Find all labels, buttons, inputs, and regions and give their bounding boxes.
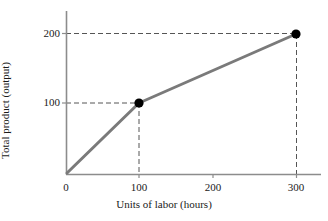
x-axis-tick-label-0: 0 [55,182,77,193]
x-axis-tick-label-100: 100 [126,182,152,193]
y-axis-title-container: Total product (output) [0,0,24,221]
x-axis-title: Units of labor (hours) [0,198,328,210]
data-point-marker-100-100 [134,98,143,107]
chart-figure: 200 100 0 100 200 300 Total product (out… [0,0,328,221]
y-axis-title: Total product (output) [0,62,25,159]
y-axis-tick-label-200: 200 [34,28,60,39]
x-axis-tick-label-300: 300 [283,182,309,193]
y-axis-tick-label-100: 100 [34,97,60,108]
data-point-marker-300-200 [291,29,300,38]
x-axis-tick-label-200: 200 [200,182,226,193]
